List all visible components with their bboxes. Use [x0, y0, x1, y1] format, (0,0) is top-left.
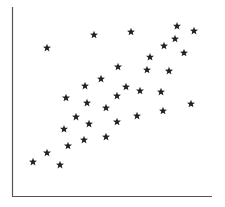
- star-marker-icon: [90, 31, 98, 39]
- star-marker-icon: [180, 49, 188, 57]
- star-marker-icon: [114, 63, 122, 71]
- star-marker-icon: [127, 28, 135, 36]
- star-marker-icon: [165, 67, 173, 75]
- star-marker-icon: [113, 118, 121, 126]
- star-marker-icon: [97, 75, 105, 83]
- star-marker-icon: [80, 136, 88, 144]
- star-marker-icon: [133, 112, 141, 120]
- star-marker-icon: [29, 158, 37, 166]
- star-marker-icon: [81, 82, 89, 90]
- data-points: [29, 22, 198, 169]
- star-marker-icon: [72, 113, 80, 121]
- star-marker-icon: [122, 83, 130, 91]
- star-marker-icon: [187, 100, 195, 108]
- star-marker-icon: [60, 125, 68, 133]
- star-marker-icon: [85, 120, 93, 128]
- star-marker-icon: [143, 66, 151, 74]
- star-marker-icon: [64, 142, 72, 150]
- star-marker-icon: [43, 149, 51, 157]
- star-marker-icon: [113, 92, 121, 100]
- star-marker-icon: [136, 87, 144, 95]
- star-marker-icon: [43, 44, 51, 52]
- star-marker-icon: [62, 94, 70, 102]
- star-marker-icon: [160, 42, 168, 50]
- star-marker-icon: [173, 22, 181, 30]
- star-marker-icon: [159, 107, 167, 115]
- star-marker-icon: [56, 161, 64, 169]
- star-marker-icon: [102, 104, 110, 112]
- star-marker-icon: [171, 35, 179, 43]
- star-marker-icon: [157, 88, 165, 96]
- star-marker-icon: [146, 53, 154, 61]
- plot-area: [12, 7, 212, 197]
- scatter-chart: [0, 0, 225, 207]
- star-marker-icon: [102, 133, 110, 141]
- star-marker-icon: [83, 99, 91, 107]
- star-marker-icon: [190, 27, 198, 35]
